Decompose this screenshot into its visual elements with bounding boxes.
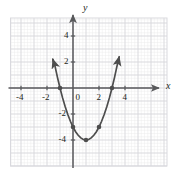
graph-figure: x y -4-202442-2-4 xyxy=(0,0,180,179)
x-tick-label-neg2: -2 xyxy=(42,92,50,102)
x-axis-label: x xyxy=(166,80,170,91)
x-tick-label-0: 0 xyxy=(76,92,81,102)
x-tick-label-2: 2 xyxy=(97,92,102,102)
x-tick-label-4: 4 xyxy=(123,92,128,102)
y-tick-label-neg2: -2 xyxy=(59,108,67,118)
y-tick-label-4: 4 xyxy=(64,30,69,40)
y-tick-label-2: 2 xyxy=(64,56,69,66)
grid-major xyxy=(11,18,168,166)
y-tick-label-neg4: -4 xyxy=(59,134,67,144)
x-tick-label-neg4: -4 xyxy=(16,92,24,102)
y-axis-label: y xyxy=(83,2,87,13)
coordinate-plane xyxy=(0,0,180,179)
